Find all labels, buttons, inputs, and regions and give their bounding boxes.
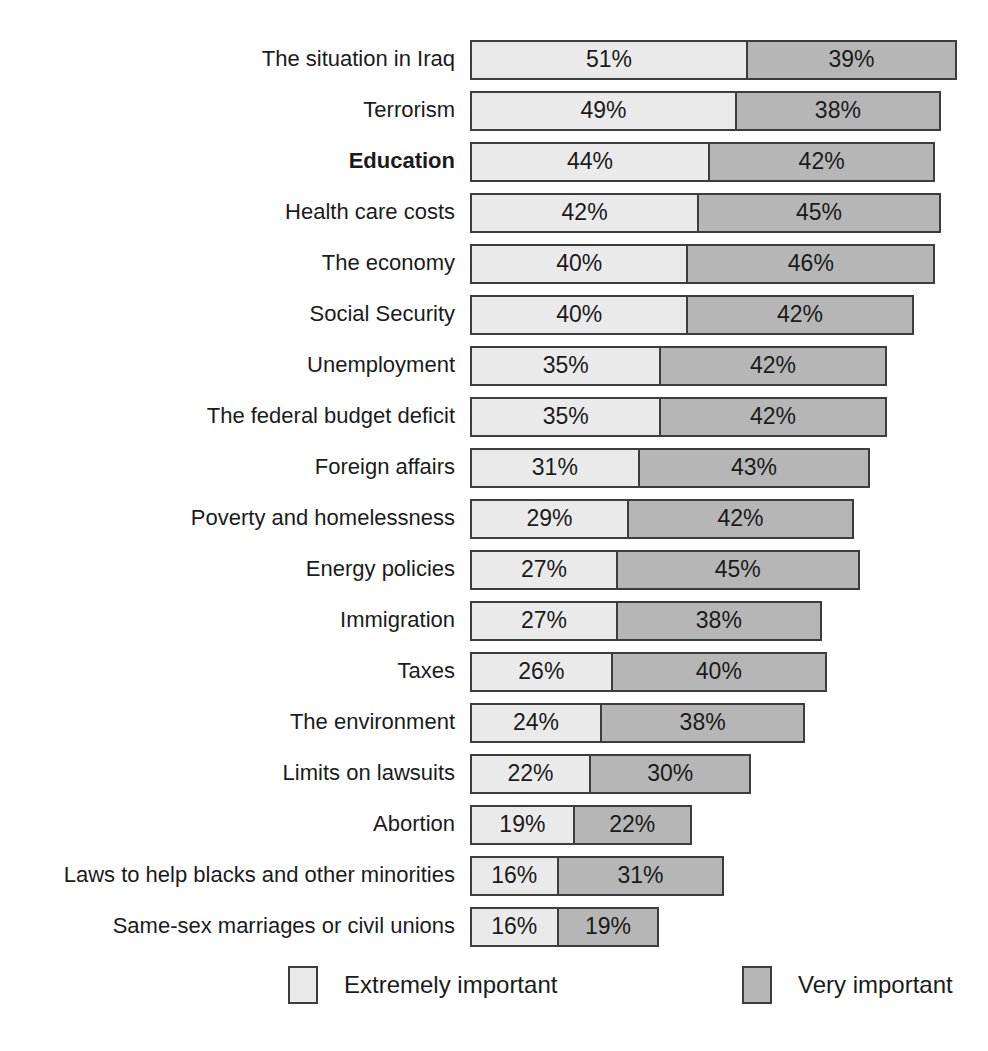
segment-value-extremely-important: 49% [581, 97, 627, 124]
bar-row: Energy policies27%45% [0, 544, 988, 595]
bar-row: Abortion19%22% [0, 799, 988, 850]
bar-segment-very-important: 46% [686, 244, 935, 284]
bar-segment-very-important: 22% [573, 805, 692, 845]
segment-value-very-important: 43% [731, 454, 777, 481]
segment-value-extremely-important: 31% [532, 454, 578, 481]
bar-row: Laws to help blacks and other minorities… [0, 850, 988, 901]
category-label: The economy [0, 251, 455, 275]
segment-value-very-important: 45% [796, 199, 842, 226]
segment-value-extremely-important: 40% [556, 250, 602, 277]
category-label: Health care costs [0, 200, 455, 224]
legend-swatch-very-important [742, 966, 772, 1004]
stacked-bar: 40%46% [470, 244, 935, 284]
bar-row: The economy40%46% [0, 238, 988, 289]
bar-row: Health care costs42%45% [0, 187, 988, 238]
bar-row: Foreign affairs31%43% [0, 442, 988, 493]
category-label: Taxes [0, 659, 455, 683]
legend-item-extremely-important: Extremely important [288, 966, 557, 1004]
stacked-bar: 24%38% [470, 703, 805, 743]
stacked-bar: 35%42% [470, 397, 887, 437]
bar-segment-extremely-important: 42% [470, 193, 697, 233]
legend-label-extremely-important: Extremely important [344, 971, 557, 999]
segment-value-extremely-important: 35% [543, 403, 589, 430]
legend-swatch-extremely-important [288, 966, 318, 1004]
segment-value-very-important: 22% [609, 811, 655, 838]
segment-value-extremely-important: 35% [543, 352, 589, 379]
segment-value-extremely-important: 51% [586, 46, 632, 73]
bar-segment-extremely-important: 44% [470, 142, 708, 182]
bar-segment-very-important: 45% [616, 550, 859, 590]
segment-value-extremely-important: 42% [562, 199, 608, 226]
category-label: Laws to help blacks and other minorities [0, 863, 455, 887]
bar-row: Taxes26%40% [0, 646, 988, 697]
bar-row: Unemployment35%42% [0, 340, 988, 391]
segment-value-very-important: 30% [647, 760, 693, 787]
category-label: Limits on lawsuits [0, 761, 455, 785]
bar-segment-very-important: 40% [611, 652, 827, 692]
segment-value-very-important: 42% [777, 301, 823, 328]
bar-segment-very-important: 42% [686, 295, 913, 335]
bar-row: The environment24%38% [0, 697, 988, 748]
segment-value-extremely-important: 40% [556, 301, 602, 328]
segment-value-very-important: 19% [585, 913, 631, 940]
segment-value-extremely-important: 22% [507, 760, 553, 787]
segment-value-extremely-important: 27% [521, 607, 567, 634]
stacked-bar: 29%42% [470, 499, 854, 539]
segment-value-very-important: 42% [750, 352, 796, 379]
bar-segment-extremely-important: 27% [470, 550, 616, 590]
bar-row: The situation in Iraq51%39% [0, 34, 988, 85]
stacked-bar: 16%31% [470, 856, 724, 896]
bar-segment-extremely-important: 40% [470, 244, 686, 284]
segment-value-very-important: 39% [828, 46, 874, 73]
bar-segment-very-important: 38% [735, 91, 941, 131]
stacked-bar: 31%43% [470, 448, 870, 488]
bar-segment-extremely-important: 31% [470, 448, 638, 488]
segment-value-very-important: 46% [788, 250, 834, 277]
bar-segment-very-important: 42% [659, 346, 886, 386]
category-label: Foreign affairs [0, 455, 455, 479]
stacked-bar: 44%42% [470, 142, 935, 182]
segment-value-very-important: 38% [680, 709, 726, 736]
segment-value-very-important: 40% [696, 658, 742, 685]
bar-segment-extremely-important: 22% [470, 754, 589, 794]
segment-value-extremely-important: 29% [526, 505, 572, 532]
category-label: Social Security [0, 302, 455, 326]
stacked-bar: 19%22% [470, 805, 692, 845]
category-label: Unemployment [0, 353, 455, 377]
category-label: The environment [0, 710, 455, 734]
category-label: Abortion [0, 812, 455, 836]
category-label: Poverty and homelessness [0, 506, 455, 530]
segment-value-extremely-important: 26% [518, 658, 564, 685]
importance-stacked-bar-chart: The situation in Iraq51%39%Terrorism49%3… [0, 0, 988, 1051]
bar-row: Terrorism49%38% [0, 85, 988, 136]
segment-value-extremely-important: 19% [499, 811, 545, 838]
bar-segment-extremely-important: 16% [470, 856, 557, 896]
bar-segment-extremely-important: 35% [470, 346, 659, 386]
bar-segment-very-important: 42% [708, 142, 935, 182]
segment-value-extremely-important: 44% [567, 148, 613, 175]
category-label: Education [0, 149, 455, 173]
segment-value-very-important: 42% [717, 505, 763, 532]
segment-value-very-important: 45% [715, 556, 761, 583]
bar-segment-very-important: 38% [616, 601, 822, 641]
segment-value-extremely-important: 16% [491, 862, 537, 889]
stacked-bar: 49%38% [470, 91, 941, 131]
bar-row: Education44%42% [0, 136, 988, 187]
legend-item-very-important: Very important [742, 966, 953, 1004]
bar-segment-very-important: 42% [659, 397, 886, 437]
bar-segment-very-important: 30% [589, 754, 751, 794]
bar-segment-extremely-important: 51% [470, 40, 746, 80]
legend-label-very-important: Very important [798, 971, 953, 999]
stacked-bar: 35%42% [470, 346, 887, 386]
category-label: The situation in Iraq [0, 47, 455, 71]
bar-segment-extremely-important: 27% [470, 601, 616, 641]
bar-segment-extremely-important: 29% [470, 499, 627, 539]
category-label: Same-sex marriages or civil unions [0, 914, 455, 938]
stacked-bar: 42%45% [470, 193, 941, 233]
bar-segment-very-important: 19% [557, 907, 660, 947]
bar-row: The federal budget deficit35%42% [0, 391, 988, 442]
stacked-bar: 27%38% [470, 601, 822, 641]
stacked-bar: 26%40% [470, 652, 827, 692]
segment-value-very-important: 38% [815, 97, 861, 124]
bar-segment-very-important: 45% [697, 193, 940, 233]
